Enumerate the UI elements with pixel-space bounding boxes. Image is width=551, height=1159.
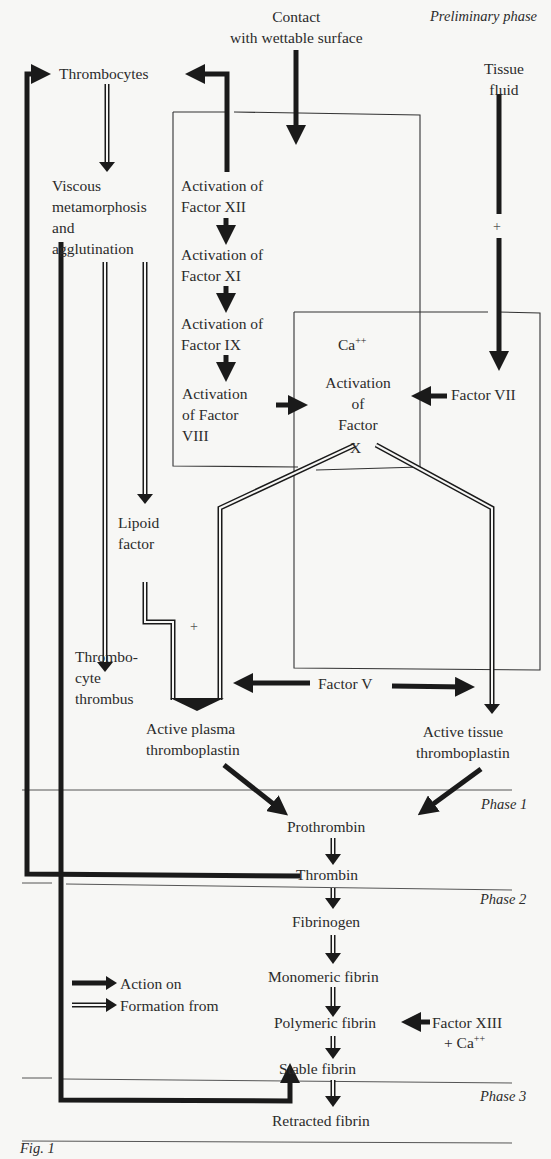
retracted-fibrin-label: Retracted fibrin bbox=[272, 1110, 370, 1131]
legend-action-on: Action on bbox=[120, 973, 182, 994]
thrombin-label: Thrombin bbox=[296, 864, 358, 885]
preliminary-phase-label: Preliminary phase bbox=[430, 6, 537, 27]
activation-factor-viii-label: Activation of Factor VIII bbox=[182, 383, 247, 446]
polymeric-fibrin-label: Polymeric fibrin bbox=[274, 1012, 376, 1033]
phase-rules bbox=[22, 790, 512, 1143]
phase-1-label: Phase 1 bbox=[481, 794, 527, 815]
phase-2-label: Phase 2 bbox=[480, 889, 526, 910]
calcium-text: Ca bbox=[338, 336, 355, 353]
figure-caption: Fig. 1 bbox=[20, 1138, 55, 1159]
factor-vii-label: Factor VII bbox=[451, 384, 516, 405]
factor-xiii-calcium-superscript: ++ bbox=[474, 1033, 485, 1044]
activation-factor-ix-label: Activation of Factor IX bbox=[181, 313, 263, 355]
thrombocytes-label: Thrombocytes bbox=[59, 63, 149, 84]
phase-3-label: Phase 3 bbox=[480, 1086, 526, 1107]
factor-xiii-calcium-label: + Ca++ bbox=[444, 1032, 485, 1053]
activation-factor-xii-label: Activation of Factor XII bbox=[181, 175, 263, 217]
active-plasma-thromboplastin-label: Active plasma thromboplastin bbox=[146, 718, 240, 760]
stable-fibrin-label: Stable fibrin bbox=[279, 1058, 356, 1079]
lipoid-factor-label: Lipoid factor bbox=[118, 512, 159, 554]
activation-factor-x-label: Activation of Factor bbox=[316, 372, 400, 435]
plus-sign-tissue: + bbox=[493, 216, 501, 237]
active-tissue-thromboplastin-label: Active tissue thromboplastin bbox=[416, 721, 510, 763]
activation-factor-xi-label: Activation of Factor XI bbox=[181, 244, 263, 286]
factor-xiii-label: Factor XIII bbox=[432, 1012, 502, 1033]
prothrombin-label: Prothrombin bbox=[287, 816, 365, 837]
formation-arrows bbox=[97, 84, 500, 1107]
legend-arrows bbox=[72, 976, 117, 1012]
plus-sign-lipoid: + bbox=[190, 616, 198, 637]
tissue-fluid-label: Tissue fluid bbox=[484, 58, 524, 100]
calcium-superscript: ++ bbox=[355, 335, 366, 346]
factor-v-label: Factor V bbox=[318, 673, 372, 694]
legend-formation-from: Formation from bbox=[120, 995, 219, 1016]
factor-xiii-calcium-text: + Ca bbox=[444, 1034, 474, 1051]
viscous-metamorphosis-label: Viscous metamorphosis and agglutination bbox=[52, 175, 147, 259]
factor-x-label: X bbox=[350, 437, 361, 458]
monomeric-fibrin-label: Monomeric fibrin bbox=[268, 966, 379, 987]
calcium-label: Ca++ bbox=[338, 334, 367, 355]
contact-wettable-surface-label: Contact with wettable surface bbox=[230, 6, 363, 48]
fibrinogen-label: Fibrinogen bbox=[292, 911, 360, 932]
thrombocyte-thrombus-label: Thrombo- cyte thrombus bbox=[75, 646, 138, 709]
